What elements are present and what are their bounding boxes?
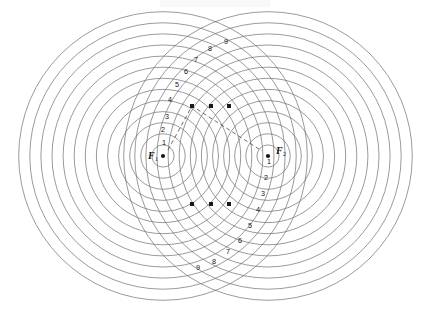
intersection-marker-5 — [209, 202, 213, 206]
f2-ring-label-4: 4 — [256, 205, 260, 214]
intersection-marker-1 — [190, 104, 194, 108]
focus-label-f2: F2 — [275, 145, 286, 157]
focus-dot-f2 — [266, 154, 270, 158]
f2-ring-label-2: 2 — [264, 173, 268, 182]
intersection-marker-4 — [190, 202, 194, 206]
diagram-canvas: 123456789 123456789 F1F2 — [0, 0, 421, 309]
f1-ring-label-8: 8 — [208, 44, 212, 53]
f1-ring-label-9: 9 — [224, 37, 228, 46]
focus-subscript-f2: 2 — [283, 152, 286, 158]
focus-dot-f1 — [161, 154, 165, 158]
f2-ring-label-9: 9 — [196, 263, 200, 272]
f1-ring-label-6: 6 — [184, 67, 188, 76]
f2-ring-label-6: 6 — [238, 236, 242, 245]
intersection-marker-6 — [227, 202, 231, 206]
focus-label-f1: F1 — [147, 150, 158, 162]
f1-ring-label-2: 2 — [161, 125, 165, 134]
f1-ring-label-3: 3 — [165, 112, 169, 121]
intersection-marker-2 — [209, 104, 213, 108]
f2-ring-label-1: 1 — [267, 157, 271, 166]
f2-ring-label-7: 7 — [226, 247, 230, 256]
f1-ring-label-7: 7 — [194, 55, 198, 64]
intersection-marker-3 — [227, 104, 231, 108]
f1-ring-label-5: 5 — [175, 80, 179, 89]
f2-ring-label-3: 3 — [261, 189, 265, 198]
f2-ring-label-8: 8 — [212, 257, 216, 266]
f2-ring-label-5: 5 — [248, 221, 252, 230]
ring-labels-f2: 123456789 — [196, 157, 271, 272]
f1-ring-label-4: 4 — [168, 95, 172, 104]
focus-subscript-f1: 1 — [155, 157, 158, 163]
f1-ring-label-1: 1 — [162, 138, 166, 147]
concentric-circles-diagram: 123456789 123456789 F1F2 — [0, 0, 421, 309]
